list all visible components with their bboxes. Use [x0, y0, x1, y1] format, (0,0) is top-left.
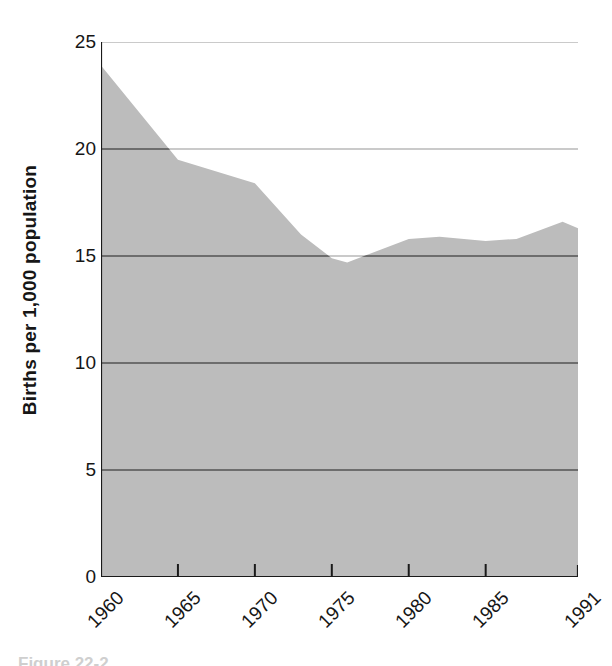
x-axis-tick-1975: 1975	[314, 587, 359, 632]
x-axis-tick-1991: 1991	[560, 587, 605, 632]
y-axis-tick-25: 25	[56, 31, 96, 53]
x-axis-tick-1965: 1965	[160, 587, 205, 632]
y-axis-tick-0: 0	[56, 566, 96, 588]
x-axis-tick-1985: 1985	[468, 587, 513, 632]
y-axis-tick-10: 10	[56, 352, 96, 374]
y-axis-tick-5: 5	[56, 459, 96, 481]
x-axis-tick-1970: 1970	[237, 587, 282, 632]
y-axis-title: Births per 1,000 population	[0, 0, 60, 580]
plot-area	[101, 42, 578, 577]
area-chart-svg	[101, 42, 578, 577]
area-series-birth-rate	[101, 66, 578, 577]
x-axis-tick-1980: 1980	[391, 587, 436, 632]
y-axis-tick-15: 15	[56, 245, 96, 267]
y-axis-tick-labels: 0510152025	[52, 0, 96, 660]
y-axis-title-text: Births per 1,000 population	[19, 165, 41, 415]
figure-caption: Figure 22-2	[18, 654, 109, 666]
y-axis-tick-20: 20	[56, 138, 96, 160]
